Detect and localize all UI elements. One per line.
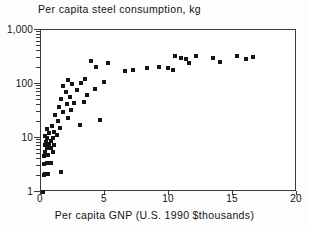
data-point — [57, 105, 61, 109]
y-tick-label: 1,000 — [7, 24, 33, 35]
data-point — [70, 82, 74, 86]
x-axis-labels: 05101520 — [0, 193, 309, 209]
data-point — [82, 100, 86, 104]
data-point — [46, 153, 50, 157]
chart-title: Per capita steel consumption, kg — [38, 3, 201, 15]
x-tick-label: 10 — [162, 193, 174, 204]
data-point — [85, 93, 89, 97]
data-point — [211, 56, 215, 60]
data-point — [123, 69, 127, 73]
data-point — [52, 130, 56, 134]
data-point — [75, 88, 79, 92]
data-point — [89, 59, 93, 63]
data-point — [98, 118, 102, 122]
data-point — [131, 68, 135, 72]
data-point — [171, 68, 175, 72]
data-point — [61, 84, 65, 88]
data-point — [49, 161, 53, 165]
x-tick-label: 15 — [226, 193, 238, 204]
data-point — [93, 87, 97, 91]
data-point — [157, 65, 161, 69]
data-point — [58, 126, 62, 130]
data-point — [251, 55, 255, 59]
data-point — [78, 123, 82, 127]
data-point — [79, 81, 83, 85]
data-point — [64, 90, 68, 94]
x-axis-title: Per capita GNP (U.S. 1990 $thousands) — [0, 209, 309, 221]
data-point — [45, 161, 49, 165]
scatter-points — [41, 30, 295, 190]
data-point — [66, 116, 70, 120]
data-point — [61, 110, 65, 114]
data-point — [166, 66, 170, 70]
data-point — [179, 56, 183, 60]
data-point — [53, 113, 57, 117]
data-point — [72, 101, 76, 105]
data-point — [218, 60, 222, 64]
data-point — [244, 57, 248, 61]
x-tick-label: 5 — [101, 193, 107, 204]
data-point — [66, 78, 70, 82]
data-point — [68, 95, 72, 99]
data-point — [94, 65, 98, 69]
data-point — [173, 54, 177, 58]
data-point — [69, 108, 73, 112]
data-point — [65, 102, 69, 106]
y-tick-label: 10 — [21, 132, 33, 143]
data-point — [52, 143, 56, 147]
data-point — [50, 124, 54, 128]
data-point — [56, 119, 60, 123]
data-point — [145, 66, 149, 70]
data-point — [46, 172, 50, 176]
data-point — [194, 54, 198, 58]
data-point — [51, 150, 55, 154]
data-point — [49, 139, 53, 143]
x-tick-label: 0 — [37, 193, 43, 204]
data-point — [59, 170, 63, 174]
x-tick-label: 20 — [290, 193, 302, 204]
data-point — [102, 80, 106, 84]
data-point — [45, 127, 49, 131]
data-point — [106, 61, 110, 65]
data-point — [83, 77, 87, 81]
plot-area — [40, 29, 296, 191]
data-point — [187, 61, 191, 65]
data-point — [235, 54, 239, 58]
data-point — [59, 97, 63, 101]
chart-figure: Per capita steel consumption, kg 1101001… — [0, 0, 309, 229]
y-tick-label: 100 — [16, 78, 33, 89]
